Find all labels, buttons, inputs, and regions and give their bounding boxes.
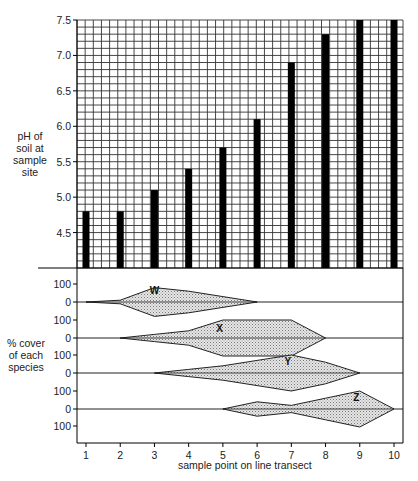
chart-canvas: 4.55.05.56.06.57.07.5 WXYZ 1000100010001… (0, 0, 418, 481)
bar-point-1 (83, 211, 90, 268)
bar-point-5 (219, 148, 226, 268)
y-tick-label: 5.0 (56, 191, 71, 203)
x-tick-label: 10 (388, 449, 400, 461)
x-tick-label: 1 (83, 449, 89, 461)
y-tick-label: 6.0 (56, 120, 71, 132)
y-tick-label: 6.5 (56, 85, 71, 97)
lower-y-tick-label: 100 (53, 349, 71, 361)
species-label-X: X (216, 323, 223, 334)
x-tick-label: 2 (117, 449, 123, 461)
x-tick-label: 8 (323, 449, 329, 461)
lower-y-axis-title: % cover of each species (0, 337, 52, 373)
y-tick-label: 7.5 (56, 14, 71, 26)
bar-point-6 (254, 119, 261, 268)
lower-y-tick-label: 0 (65, 296, 71, 308)
lower-y-tick-label: 100 (53, 278, 71, 290)
lower-y-tick-label: 100 (53, 314, 71, 326)
lower-y-tick-label: 100 (53, 385, 71, 397)
x-tick-label: 9 (357, 449, 363, 461)
upper-y-axis-title: pH of soil at sample site (8, 130, 52, 178)
bar-point-8 (322, 34, 329, 268)
lower-y-tick-label: 0 (65, 367, 71, 379)
y-tick-label: 4.5 (56, 227, 71, 239)
bar-point-7 (288, 63, 295, 268)
species-label-W: W (150, 285, 160, 296)
x-tick-label: 3 (152, 449, 158, 461)
y-tick-label: 5.5 (56, 156, 71, 168)
lower-y-tick-label: 100 (53, 420, 71, 432)
bar-point-3 (151, 190, 158, 268)
bar-point-4 (185, 169, 192, 268)
lower-y-tick-label: 0 (65, 332, 71, 344)
y-tick-label: 7.0 (56, 49, 71, 61)
ph-grid (77, 20, 403, 268)
bar-point-2 (117, 211, 124, 268)
kite-diagram: WXYZ (77, 285, 403, 427)
species-label-Z: Z (353, 392, 359, 403)
bar-point-10 (391, 20, 398, 268)
x-axis-title: sample point on line transect (178, 459, 312, 471)
bar-point-9 (356, 20, 363, 268)
species-label-Y: Y (285, 356, 292, 367)
lower-y-tick-label: 0 (65, 403, 71, 415)
